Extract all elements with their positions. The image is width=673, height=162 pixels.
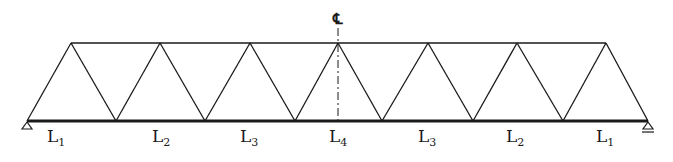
diagonal-member <box>606 43 648 121</box>
panel-length-label: L1 <box>47 126 65 149</box>
diagonal-member <box>160 43 205 121</box>
diagonal-member <box>205 43 250 121</box>
panel-length-label: L3 <box>240 126 258 149</box>
panel-length-label: L1 <box>596 126 614 149</box>
panel-labels: L1L2L3L4L3L2L1 <box>47 126 614 149</box>
centerline-symbol: ℄ <box>332 10 343 28</box>
diagonal-member <box>295 43 338 121</box>
panel-length-label: L2 <box>152 126 170 149</box>
diagonal-member <box>563 43 606 121</box>
diagonal-member <box>71 43 116 121</box>
diagonal-member <box>116 43 160 121</box>
diagonal-member <box>428 43 473 121</box>
panel-length-label: L4 <box>329 126 347 149</box>
diagonal-member <box>517 43 563 121</box>
diagonal-member <box>250 43 295 121</box>
panel-length-label: L2 <box>506 126 524 149</box>
centerline: ℄ <box>332 10 343 121</box>
diagonal-member <box>338 43 382 121</box>
truss-diagram: ℄ L1L2L3L4L3L2L1 <box>0 0 673 162</box>
diagonal-member <box>473 43 517 121</box>
roller-support-icon <box>643 122 653 129</box>
diagonal-member <box>27 43 71 121</box>
panel-length-label: L3 <box>418 126 436 149</box>
diagonal-member <box>382 43 428 121</box>
pin-support-icon <box>22 122 32 129</box>
